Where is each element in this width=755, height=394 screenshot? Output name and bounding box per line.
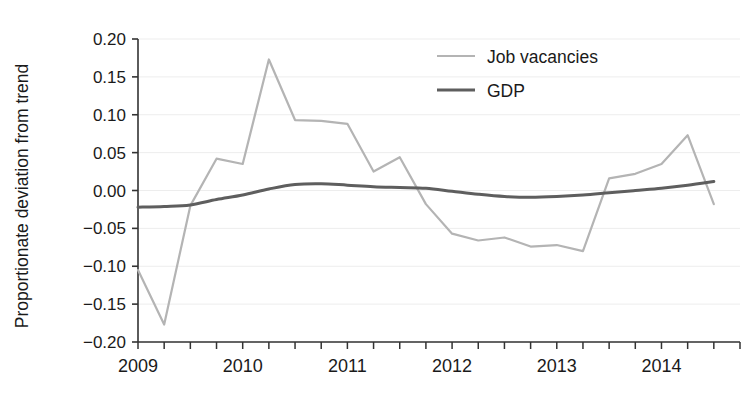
legend: Job vacanciesGDP: [437, 47, 598, 101]
y-tick-label: 0.10: [93, 106, 126, 125]
x-tick-label: 2014: [641, 356, 681, 376]
x-axis: [138, 342, 740, 349]
x-tick-labels: 200920102011201220132014: [118, 356, 682, 376]
y-axis-title: Proportionate deviation from trend: [12, 64, 32, 329]
y-tick-label: −0.05: [83, 219, 126, 238]
y-axis: [132, 39, 138, 342]
y-tick-label: 0.00: [93, 182, 126, 201]
x-tick-label: 2012: [432, 356, 472, 376]
x-tick-label: 2009: [118, 356, 158, 376]
y-tick-label: −0.20: [83, 333, 126, 352]
legend-label: Job vacancies: [487, 47, 598, 67]
y-tick-label: 0.05: [93, 144, 126, 163]
x-tick-label: 2010: [223, 356, 263, 376]
x-tick-label: 2013: [537, 356, 577, 376]
line-chart: 0.200.150.100.050.00−0.05−0.10−0.15−0.20…: [0, 0, 755, 394]
y-tick-label: −0.15: [83, 295, 126, 314]
x-tick-label: 2011: [328, 356, 367, 376]
y-tick-label: −0.10: [83, 257, 126, 276]
legend-label: GDP: [487, 81, 525, 101]
chart-container: 0.200.150.100.050.00−0.05−0.10−0.15−0.20…: [0, 0, 755, 394]
y-tick-label: 0.20: [93, 30, 126, 49]
y-tick-labels: 0.200.150.100.050.00−0.05−0.10−0.15−0.20: [83, 30, 126, 352]
data-series: [138, 59, 714, 324]
y-tick-label: 0.15: [93, 68, 126, 87]
